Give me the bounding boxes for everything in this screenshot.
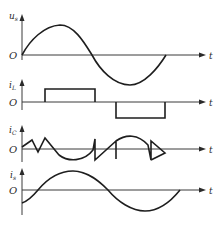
panel-iC: iC O t — [9, 125, 213, 162]
iC-origin-label: O — [9, 144, 17, 155]
iC-t-label: t — [209, 145, 213, 155]
iL-waveform — [45, 89, 165, 118]
iC-y-label: iC — [9, 125, 17, 136]
us-x-arrow-icon — [199, 53, 206, 58]
iC-x-arrow-icon — [199, 147, 206, 152]
us-origin-label: O — [9, 50, 17, 61]
iC-waveform — [22, 136, 165, 160]
panel-us: us O t — [9, 11, 213, 85]
iL-y-arrow-icon — [20, 79, 25, 86]
iL-t-label: t — [209, 98, 213, 108]
us-y-arrow-icon — [20, 14, 25, 21]
iL-origin-label: O — [9, 97, 17, 108]
iC-y-arrow-icon — [20, 125, 25, 132]
us-y-label: us — [9, 11, 18, 22]
us-t-label: t — [209, 51, 213, 61]
is-origin-label: O — [9, 185, 17, 196]
is-y-label: is — [10, 170, 16, 181]
is-waveform — [22, 171, 180, 211]
is-t-label: t — [209, 186, 213, 196]
is-x-arrow-icon — [199, 188, 206, 193]
panel-iL: iL O t — [9, 79, 213, 118]
iL-y-label: iL — [9, 80, 16, 91]
panel-is: is O t — [9, 168, 213, 215]
is-y-arrow-icon — [20, 168, 25, 175]
waveform-figure: us O t iL O t iC O t is O t — [0, 0, 221, 228]
iL-x-arrow-icon — [199, 100, 206, 105]
